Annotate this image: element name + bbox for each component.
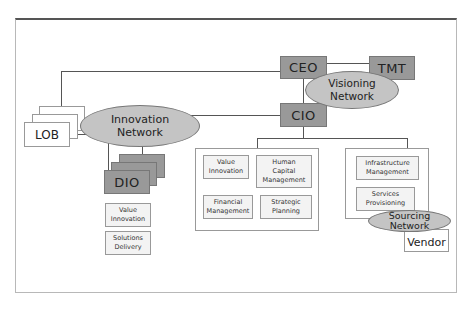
lob-label: LOB [35,128,59,142]
sourcing-function-line1: Infrastructure [365,159,409,167]
cio-function-line2: Management [207,207,250,215]
cio-label: CIO [291,108,316,123]
connector-cio-groups [257,138,407,139]
connector-ceo-tmt [327,63,369,64]
visioning-network-line2: Network [330,90,374,102]
connector-cio-mid-group [257,138,258,148]
cio-function-line2: Innovation [209,167,243,175]
dio-box[interactable]: DIO [104,170,150,194]
visioning-network-line1: Visioning [328,77,376,89]
connector-cio-down [303,127,304,138]
sourcing-function-line2: Management [366,168,409,176]
connector-ceo-lob [61,71,280,72]
connector-lob-top [61,71,62,106]
vendor-box[interactable]: Vendor [404,229,449,252]
cio-function-line3: Management [263,176,306,184]
sourcing-function-line1: Services [372,190,399,198]
dio-label: DIO [114,175,140,190]
dio-function-line1: Solutions [113,234,143,242]
innovation-network-line1: Innovation [111,113,169,126]
dio-function-line1: Value [119,206,137,214]
sourcing-function-services-provisioning[interactable]: Services Provisioning [356,187,415,211]
connector-ceo-cio [303,79,304,103]
cio-function-line2: Capital [273,167,296,175]
innovation-network-ellipse[interactable]: Innovation Network [80,105,200,147]
cio-function-strategic-planning[interactable]: Strategic Planning [260,195,312,219]
cio-function-line2: Planning [272,207,300,215]
sourcing-network-line2: Network [390,220,430,231]
sourcing-network-ellipse[interactable]: Sourcing Network [368,210,451,232]
innovation-network-line2: Network [117,126,163,139]
cio-function-line1: Financial [214,198,242,206]
cio-box[interactable]: CIO [280,103,327,127]
cio-function-financial-management[interactable]: Financial Management [203,195,253,219]
lob-box[interactable]: LOB [24,122,70,147]
sourcing-function-line2: Provisioning [366,199,405,207]
dio-function-line2: Delivery [115,243,142,251]
visioning-network-ellipse[interactable]: Visioning Network [305,71,399,109]
cio-function-value-innovation[interactable]: Value Innovation [203,155,249,179]
sourcing-function-infrastructure-management[interactable]: Infrastructure Management [356,156,419,180]
cio-function-line1: Value [217,158,235,166]
dio-function-value-innovation[interactable]: Value Innovation [105,203,151,227]
cio-function-line1: Human [272,158,295,166]
tmt-label: TMT [378,61,407,76]
vendor-label: Vendor [407,236,446,249]
connector-cio-right-group [407,138,408,148]
dio-function-line2: Innovation [111,215,145,223]
ceo-label: CEO [289,60,318,75]
dio-function-solutions-delivery[interactable]: Solutions Delivery [105,231,151,255]
cio-function-line1: Strategic [271,198,300,206]
cio-function-human-capital-management[interactable]: Human Capital Management [256,155,312,188]
